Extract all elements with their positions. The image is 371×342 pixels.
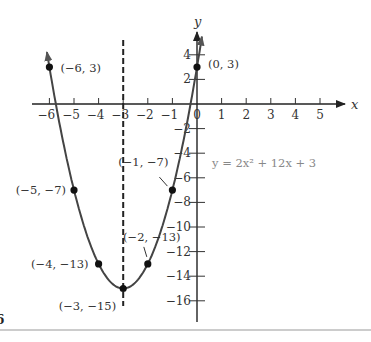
x-tick-label: −5 [62,108,80,122]
y-tick-label: −8 [173,195,191,209]
x-tick-label: −4 [87,108,105,122]
point-label: (0, 3) [208,57,239,71]
data-point [120,285,127,292]
leader-line [159,177,167,186]
x-tick-label: 4 [292,108,300,122]
leader-line [144,247,147,257]
x-tick-label: −2 [136,108,154,122]
equation-label: y = 2x² + 12x + 3 [211,156,316,170]
point-label: (−3, −15) [59,299,117,313]
x-axis-ticks: −6−5−4−3−2−1012345 [38,98,324,122]
data-point [144,260,151,267]
y-tick-label: −16 [166,294,191,308]
data-points: (−6, 3)(0, 3)(−5, −7)(−1, −7)(−4, −13)(−… [16,57,239,312]
y-axis-label: y [193,14,202,29]
x-tick-label: −3 [111,108,129,122]
point-label: (−1, −7) [118,155,168,169]
page-edge-fragment: 6 [0,313,4,327]
point-label: (−4, −13) [31,257,89,271]
y-tick-label: 2 [183,72,191,86]
data-point [70,187,77,194]
x-axis-label: x [351,97,359,112]
parabola-left-branch [47,52,123,288]
y-tick-label: −14 [166,269,192,283]
x-tick-label: 3 [267,108,275,122]
x-tick-label: 2 [242,108,250,122]
point-label: (−6, 3) [60,61,101,75]
y-tick-label: −2 [173,122,191,136]
data-point [46,64,53,71]
point-label: (−5, −7) [16,183,66,197]
x-tick-label: −1 [161,108,179,122]
data-point [169,187,176,194]
data-point [95,260,102,267]
y-axis-ticks: 42−2−4−6−8−10−12−14−16 [166,48,205,308]
x-tick-label: 5 [316,108,324,122]
x-tick-label: 0 [193,108,201,122]
y-tick-label: 4 [183,48,191,62]
parabola-chart: −6−5−4−3−2−1012345 42−2−4−6−8−10−12−14−1… [0,0,371,342]
x-tick-label: 1 [218,108,226,122]
y-tick-label: −12 [166,245,191,259]
data-point [193,64,200,71]
point-label: (−2, −13) [123,230,181,244]
x-tick-label: −6 [38,108,56,122]
